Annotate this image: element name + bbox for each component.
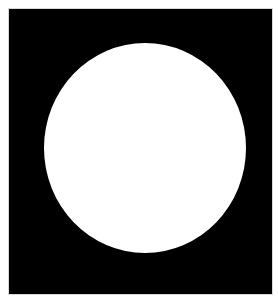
- black-square-background: [9, 9, 272, 294]
- white-circle: [44, 43, 246, 253]
